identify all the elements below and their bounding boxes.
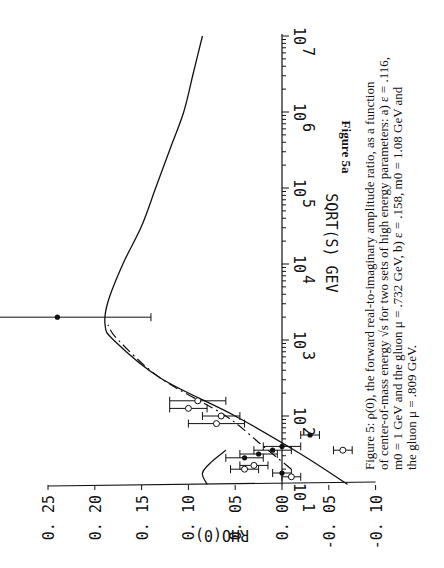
energy-tick-base: 10 [290, 331, 308, 349]
curve-series-2 [108, 325, 291, 469]
data-point-open [218, 413, 224, 419]
rho-axis-title: RHO(0) [195, 526, 249, 544]
data-point-open [242, 466, 248, 472]
energy-tick-label: 104 [290, 255, 317, 284]
plot-area [0, 34, 376, 490]
figure-caption: Figure 5: ρ(0), the forward real-to-imag… [362, 57, 419, 470]
data-point-filled [256, 451, 261, 456]
energy-tick-label: 102 [290, 407, 317, 436]
energy-tick-exp: 2 [299, 427, 317, 436]
energy-tick-exp: 4 [299, 275, 317, 284]
energy-tick-label: 103 [290, 331, 317, 360]
energy-tick-base: 10 [290, 255, 308, 273]
energy-tick-label: 107 [290, 27, 317, 56]
data-point-filled [279, 444, 284, 449]
caption-line: m0 = 1 GeV and the gluon μ = .732 GeV, b… [390, 86, 405, 470]
energy-tick-exp: 5 [299, 199, 317, 208]
rho-tick-label: 0. 15 [134, 495, 152, 540]
energy-tick-exp: 1 [299, 503, 317, 512]
rho-axis-line [48, 482, 376, 486]
data-point-open [213, 421, 219, 427]
rho-tick-label: -0. 10 [368, 495, 386, 549]
energy-tick-label: 105 [290, 179, 317, 208]
data-point-filled [242, 455, 247, 460]
energy-tick-base: 10 [290, 407, 308, 425]
energy-tick-label: 101 [290, 483, 317, 512]
caption-line: the gluon μ = .809 GeV. [404, 345, 419, 470]
energy-axis-labels: 101102103104105106107 [290, 27, 317, 512]
energy-tick-label: 106 [290, 103, 317, 132]
energy-tick-base: 10 [290, 27, 308, 45]
data-point-open [288, 474, 294, 480]
energy-tick-exp: 6 [299, 123, 317, 132]
data-point-filled [55, 315, 60, 320]
caption-line: Figure 5: ρ(0), the forward real-to-imag… [362, 81, 377, 470]
rotated-chart-figure: 0. 250. 200. 150. 100. 050. 00-0. 05-0. … [0, 0, 444, 568]
data-point-open [185, 405, 191, 411]
energy-tick-exp: 7 [299, 47, 317, 56]
figure-label: Figure 5a [339, 121, 354, 174]
rho-tick-label: -0. 05 [321, 495, 339, 549]
data-point-open [195, 398, 201, 404]
rho-tick-label: 0. 20 [87, 495, 105, 540]
energy-tick-base: 10 [290, 179, 308, 197]
data-point-filled [270, 448, 275, 453]
energy-tick-exp: 3 [299, 351, 317, 360]
data-point-open [251, 462, 257, 468]
caption-line: of center-of-mass energy √s for two sets… [376, 57, 391, 470]
rho-tick-label: 0. 25 [40, 495, 58, 540]
energy-tick-base: 10 [290, 103, 308, 121]
energy-axis-title: SQRT(S) GEV [322, 193, 340, 292]
curve-series-1 [105, 36, 348, 484]
rho-tick-label: 0. 00 [274, 495, 292, 540]
curve-series-3 [202, 450, 225, 484]
data-point-open [340, 447, 346, 453]
energy-tick-base: 10 [290, 483, 308, 501]
